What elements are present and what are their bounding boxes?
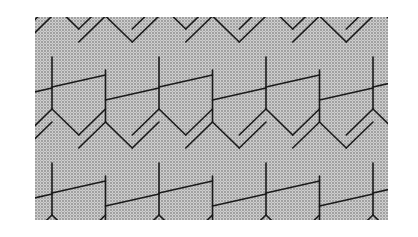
hexagon-tiling-image [35,17,388,220]
tiling-figure [35,17,388,220]
halftone-fill [35,17,388,220]
